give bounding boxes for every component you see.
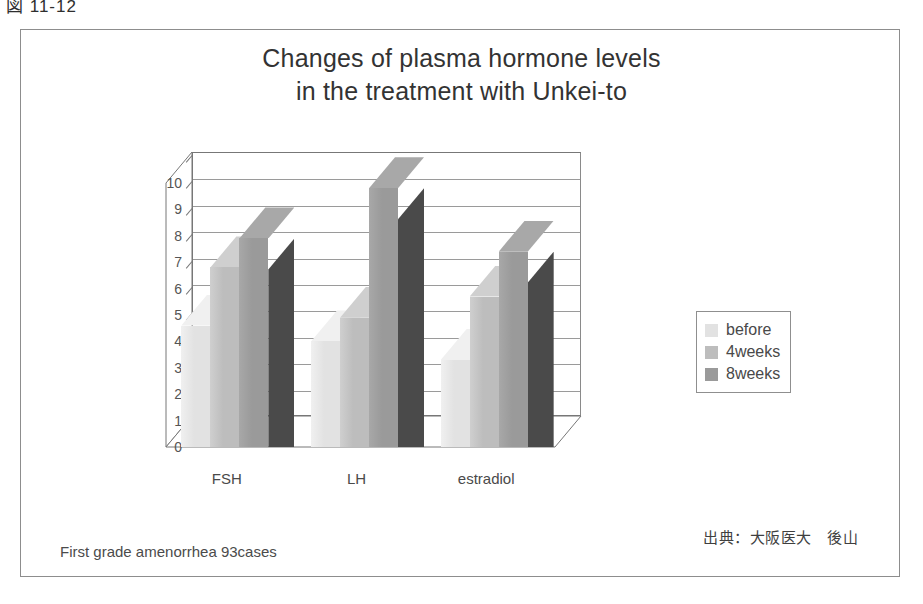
legend-label: 8weeks [726, 365, 780, 383]
chart-title-line-2: in the treatment with Unkei-to [0, 75, 923, 108]
y-axis-tick-label: 2 [152, 386, 182, 402]
bar-FSH-4weeks [210, 267, 239, 447]
plot-area: 012345678910 [166, 152, 581, 447]
x-axis-label-FSH: FSH [212, 470, 242, 487]
bar-estradiol-8weeks [499, 252, 528, 447]
bar-LH-before [311, 341, 340, 447]
chart-title-line-1: Changes of plasma hormone levels [0, 42, 923, 75]
bar-front-face [499, 252, 528, 447]
bar-estradiol-before [441, 360, 470, 447]
x-axis-label-estradiol: estradiol [458, 470, 515, 487]
y-axis-tick-label: 10 [152, 175, 182, 191]
y-axis-tick-label: 1 [152, 413, 182, 429]
x-axis-label-LH: LH [347, 470, 366, 487]
y-axis-tick-label: 7 [152, 254, 182, 270]
y-axis-tick-label: 4 [152, 333, 182, 349]
y-axis-tick-label: 3 [152, 360, 182, 376]
bar-side-face [268, 238, 294, 447]
figure-caption: 図 11-12 [6, 0, 77, 17]
legend-item-8weeks: 8weeks [705, 363, 780, 385]
bar-side-face [528, 252, 554, 447]
legend-item-4weeks: 4weeks [705, 341, 780, 363]
chart-legend: before4weeks8weeks [696, 311, 791, 393]
bar-side-face [398, 188, 424, 447]
bar-estradiol-4weeks [470, 297, 499, 447]
legend-label: 4weeks [726, 343, 780, 361]
bar-LH-4weeks [340, 318, 369, 447]
bar-LH-8weeks [369, 188, 398, 447]
y-axis-tick-label: 9 [152, 201, 182, 217]
bar-FSH-before [181, 326, 210, 447]
legend-swatch-icon [705, 324, 718, 337]
y-axis-tick-label: 6 [152, 281, 182, 297]
legend-swatch-icon [705, 368, 718, 381]
bar-front-face [340, 318, 369, 447]
legend-item-before: before [705, 319, 780, 341]
legend-swatch-icon [705, 346, 718, 359]
bar-front-face [441, 360, 470, 447]
footnote-source: 出典：大阪医大 後山 [703, 526, 858, 547]
bar-front-face [470, 297, 499, 447]
bar-front-face [239, 238, 268, 447]
y-axis-tick-label: 5 [152, 307, 182, 323]
y-axis-tick-label: 0 [152, 439, 182, 455]
footnote-sample-size: First grade amenorrhea 93cases [60, 543, 277, 560]
bar-top-face [499, 221, 554, 252]
x-axis-labels: FSHLHestradiol [166, 470, 596, 492]
bar-front-face [369, 188, 398, 447]
bar-FSH-8weeks [239, 238, 268, 447]
bar-front-face [210, 267, 239, 447]
bar-front-face [181, 326, 210, 447]
legend-label: before [726, 321, 771, 339]
bar-top-face [239, 207, 294, 238]
chart-title: Changes of plasma hormone levels in the … [0, 42, 923, 108]
bar-top-face [369, 157, 424, 188]
bars-layer [192, 152, 581, 416]
y-axis-tick-label: 8 [152, 228, 182, 244]
bar-front-face [311, 341, 340, 447]
